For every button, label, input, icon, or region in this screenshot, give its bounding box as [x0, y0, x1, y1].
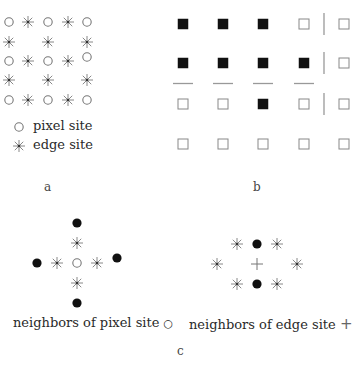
empty-pixel-icon	[258, 139, 268, 149]
edge-site-icon	[81, 74, 93, 86]
edge-site-icon	[22, 94, 34, 106]
neighbor-dot-icon	[252, 279, 261, 288]
filled-pixel-icon	[218, 19, 228, 29]
edge-site-icon	[271, 238, 283, 250]
empty-pixel-icon	[178, 99, 188, 109]
filled-pixel-icon	[258, 99, 268, 109]
edge-site-icon	[3, 36, 15, 48]
pixel-neighbors-caption: neighbors of pixel site ○	[13, 315, 173, 330]
neighbor-dot-icon	[72, 298, 81, 307]
pixel-site-icon	[44, 57, 52, 65]
empty-pixel-icon	[339, 99, 349, 109]
plus-icon	[251, 258, 263, 270]
edge-site-icon	[62, 94, 74, 106]
pixel-site-icon	[83, 18, 91, 26]
pixel-neighbors-caption-text: neighbors of pixel site	[13, 315, 159, 330]
pixel-site-icon	[83, 53, 91, 61]
legend-edge-site-label: edge site	[33, 137, 93, 152]
legend-pixel-site-label: pixel site	[33, 118, 93, 133]
edge-site-icon	[231, 278, 243, 290]
edge-site-icon	[231, 238, 243, 250]
panel-b-label: b	[253, 180, 261, 194]
pixel-site-icon	[83, 96, 91, 104]
edge-site-icon	[91, 257, 103, 269]
edge-site-icon	[42, 36, 54, 48]
pixel-site-icon	[44, 96, 52, 104]
edge-site-icon	[22, 55, 34, 67]
edge-site-icon	[51, 257, 63, 269]
neighbor-dot-icon	[32, 258, 41, 267]
edge-site-icon	[271, 278, 283, 290]
empty-pixel-icon	[339, 58, 349, 68]
filled-pixel-icon	[218, 58, 228, 68]
filled-pixel-icon	[178, 19, 188, 29]
pixel-site-icon	[15, 123, 23, 131]
mrf-lattice-diagram	[0, 0, 360, 365]
panel-c-label: c	[177, 344, 184, 358]
pixel-site-icon	[73, 259, 81, 267]
edge-site-icon	[71, 277, 83, 289]
filled-pixel-icon	[258, 19, 268, 29]
edge-neighbors-caption-text: neighbors of edge site	[189, 317, 336, 332]
filled-pixel-icon	[299, 58, 309, 68]
edge-site-icon	[13, 140, 25, 152]
neighbor-dot-icon	[112, 253, 121, 262]
panel-a-legend-symbols	[13, 123, 25, 152]
filled-pixel-icon	[178, 58, 188, 68]
empty-pixel-icon	[299, 139, 309, 149]
pixel-site-icon	[5, 96, 13, 104]
empty-pixel-icon	[218, 139, 228, 149]
panel-a-lattice	[3, 16, 93, 106]
neighbor-dot-icon	[252, 239, 261, 248]
panel-c-pixel-site-neighborhood	[32, 218, 121, 307]
filled-pixel-icon	[258, 58, 268, 68]
edge-site-icon	[81, 36, 93, 48]
edge-site-symbol-icon: +	[340, 315, 353, 333]
edge-site-icon	[3, 74, 15, 86]
edge-site-icon	[42, 74, 54, 86]
pixel-site-icon	[5, 18, 13, 26]
empty-pixel-icon	[218, 99, 228, 109]
edge-neighbors-caption: neighbors of edge site +	[189, 315, 352, 333]
empty-pixel-icon	[299, 19, 309, 29]
empty-pixel-icon	[339, 139, 349, 149]
edge-site-icon	[62, 55, 74, 67]
neighbor-dot-icon	[72, 218, 81, 227]
empty-pixel-icon	[299, 99, 309, 109]
edge-site-icon	[211, 258, 223, 270]
empty-pixel-icon	[178, 139, 188, 149]
panel-b-labeled-lattice	[173, 13, 349, 149]
pixel-site-icon	[44, 18, 52, 26]
panel-a-label: a	[44, 180, 51, 194]
edge-site-icon	[291, 258, 303, 270]
edge-site-icon	[22, 16, 34, 28]
panel-c-edge-site-neighborhood	[211, 238, 303, 290]
edge-site-icon	[71, 237, 83, 249]
edge-site-icon	[62, 16, 74, 28]
pixel-site-icon	[5, 57, 13, 65]
empty-pixel-icon	[339, 19, 349, 29]
pixel-site-symbol-icon: ○	[164, 317, 174, 330]
